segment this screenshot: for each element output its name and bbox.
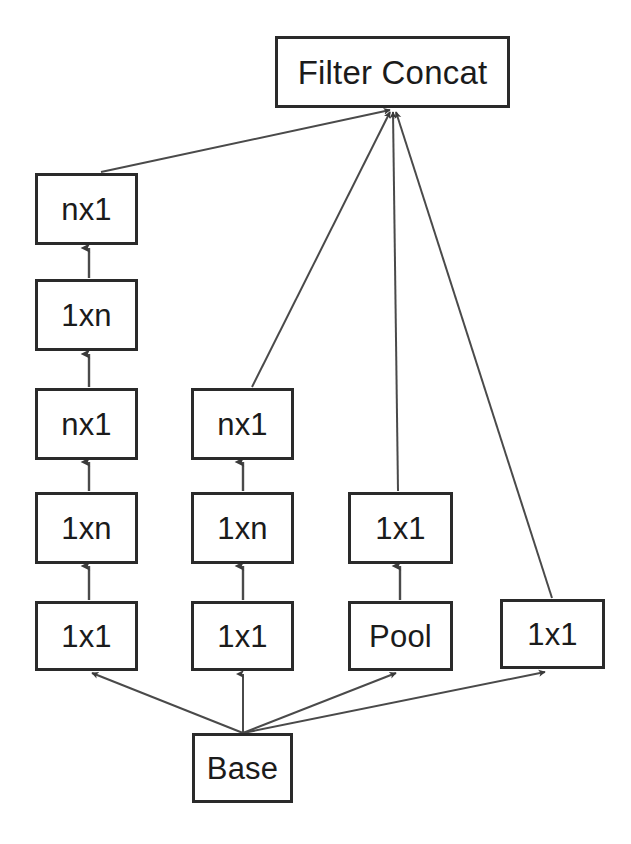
node-branch-a-1xn-upper[interactable]: 1xn	[35, 279, 138, 351]
node-filter-concat[interactable]: Filter Concat	[275, 36, 510, 108]
node-branch-d-1x1[interactable]: 1x1	[500, 599, 605, 669]
edge-branch-a-to-concat	[101, 110, 390, 172]
edge-branch-b-to-concat	[252, 112, 390, 387]
edges-to-filter-concat	[101, 110, 552, 598]
node-branch-b-1x1[interactable]: 1x1	[191, 601, 294, 671]
node-label: 1x1	[527, 619, 578, 650]
node-label: Base	[207, 753, 278, 784]
node-label: Filter Concat	[298, 56, 488, 89]
node-label: 1xn	[217, 513, 268, 544]
node-label: nx1	[61, 194, 112, 225]
node-label: 1x1	[217, 621, 268, 652]
node-branch-a-1x1[interactable]: 1x1	[35, 601, 138, 671]
node-branch-b-nx1[interactable]: nx1	[191, 388, 294, 460]
node-branch-a-1xn-lower[interactable]: 1xn	[35, 492, 138, 564]
node-branch-c-1x1[interactable]: 1x1	[348, 492, 453, 564]
node-label: Pool	[369, 621, 432, 652]
node-label: 1x1	[61, 621, 112, 652]
node-branch-a-nx1-top[interactable]: nx1	[35, 173, 138, 245]
node-branch-c-pool[interactable]: Pool	[348, 601, 453, 671]
node-label: 1xn	[61, 300, 112, 331]
node-label: nx1	[217, 409, 268, 440]
node-branch-b-1xn[interactable]: 1xn	[191, 492, 294, 564]
inception-module-diagram: Filter Concat nx1 1xn nx1 1xn 1x1 nx1 1x…	[0, 0, 631, 844]
node-branch-a-nx1-lower[interactable]: nx1	[35, 388, 138, 460]
node-label: 1xn	[61, 513, 112, 544]
edges-from-base	[92, 672, 545, 733]
node-label: nx1	[61, 409, 112, 440]
edge-branch-c-to-concat	[393, 112, 398, 491]
node-label: 1x1	[375, 513, 426, 544]
node-base[interactable]: Base	[192, 733, 293, 803]
edge-base-to-branch-d	[243, 672, 545, 733]
edge-base-to-branch-a	[92, 673, 243, 733]
edge-base-to-branch-c	[243, 673, 396, 733]
